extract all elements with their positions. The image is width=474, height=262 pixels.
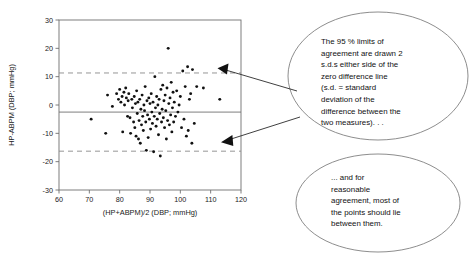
data-point (141, 115, 144, 118)
data-point (183, 118, 186, 121)
data-point (132, 121, 135, 124)
data-point (117, 98, 120, 101)
figure-canvas: HP-ABPM (DBP; mmHg) (HP+ABPM)/2 (DBP; mm… (0, 0, 474, 262)
data-point (169, 113, 172, 116)
data-point (136, 112, 139, 115)
callout-line: two measures). . . (321, 118, 384, 127)
data-point (155, 125, 158, 128)
data-point (168, 123, 171, 126)
data-point (166, 119, 169, 122)
data-point (153, 75, 156, 78)
data-point (166, 87, 169, 90)
data-point (186, 65, 189, 68)
x-axis-title: (HP+ABPM)/2 (DBP; mmHg) (103, 208, 198, 217)
callout-line: ... and for (331, 173, 365, 182)
y-axis-title: HP-ABPM (DBP; mmHg) (7, 64, 16, 146)
data-point (129, 116, 132, 119)
data-point (140, 123, 143, 126)
data-point (130, 98, 133, 101)
data-point (190, 142, 193, 145)
data-point (158, 98, 161, 101)
callout-line: agreement are drawn 2 (321, 49, 403, 58)
callout-arrowhead-lower (221, 135, 233, 146)
data-point (144, 121, 147, 124)
data-point (138, 98, 141, 101)
callout-line: s.d.s either side of the (321, 60, 399, 69)
data-point (126, 115, 129, 118)
data-point (171, 106, 174, 109)
data-point (121, 130, 124, 133)
callout-line: between them. (331, 219, 383, 228)
data-point (127, 99, 130, 102)
y-tick-label: -10 (43, 129, 53, 138)
data-point (149, 128, 152, 131)
data-point (147, 136, 150, 139)
x-tick-label: 80 (116, 195, 124, 204)
data-point (144, 85, 147, 88)
y-tick-label: 10 (45, 72, 53, 81)
x-tick-label: 60 (55, 195, 63, 204)
y-tick-label: -30 (43, 186, 53, 195)
data-point (104, 132, 107, 135)
bland-altman-figure: HP-ABPM (DBP; mmHg) (HP+ABPM)/2 (DBP; mm… (0, 0, 474, 262)
data-point (187, 129, 190, 132)
reference-lines (59, 73, 241, 151)
chart-svg: HP-ABPM (DBP; mmHg) (HP+ABPM)/2 (DBP; mm… (0, 0, 474, 262)
data-point (154, 106, 157, 109)
data-point (123, 104, 126, 107)
data-point (188, 98, 191, 101)
data-point (165, 138, 168, 141)
data-point (176, 111, 179, 114)
data-point (174, 115, 177, 118)
callout-line: zero difference line (321, 72, 388, 81)
data-point (135, 89, 138, 92)
y-tick-label: 20 (45, 44, 53, 53)
x-tick-label: 70 (85, 195, 93, 204)
callout-line: (s.d. = standard (321, 83, 376, 92)
data-point (175, 89, 178, 92)
data-point (133, 126, 136, 129)
callout-line: reasonable (331, 185, 371, 194)
data-point (90, 118, 93, 121)
data-point (163, 126, 166, 129)
data-point (115, 92, 118, 95)
data-point (121, 95, 124, 98)
data-point (178, 104, 181, 107)
data-point (137, 138, 140, 141)
data-point (155, 95, 158, 98)
callout-line: difference between the (321, 107, 401, 116)
data-point (162, 116, 165, 119)
callout-arrow-upper (224, 70, 297, 92)
data-point (143, 109, 146, 112)
data-point (164, 109, 167, 112)
data-point (161, 108, 164, 111)
data-point (167, 47, 170, 50)
y-tick-label: 0 (49, 101, 53, 110)
callout-line: deviation of the (321, 95, 375, 104)
data-point (179, 95, 182, 98)
data-point (218, 98, 221, 101)
data-point (167, 102, 170, 105)
data-point (184, 85, 187, 88)
data-point (189, 92, 192, 95)
data-point (119, 101, 122, 104)
data-point (202, 87, 205, 90)
data-point (141, 94, 144, 97)
data-point (131, 106, 134, 109)
data-point (150, 111, 153, 114)
data-point (185, 135, 188, 138)
data-point (122, 91, 125, 94)
x-tick-label: 90 (146, 195, 154, 204)
x-tick-label: 110 (205, 195, 216, 204)
callout-arrow-lower (228, 117, 300, 140)
callout-line: agreement, most of (331, 196, 400, 205)
data-point (157, 133, 160, 136)
data-point (156, 118, 159, 121)
data-point (146, 113, 149, 116)
data-point (142, 129, 145, 132)
data-point (170, 81, 173, 84)
data-point (139, 142, 142, 145)
data-point (135, 135, 138, 138)
callout-text-limits: The 95 % limits ofagreement are drawn 2s… (321, 37, 403, 127)
data-point (149, 102, 152, 105)
